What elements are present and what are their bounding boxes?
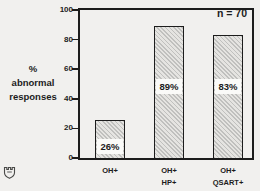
y-tick-label: 100 <box>60 5 73 15</box>
y-axis-title-line-3: responses <box>2 90 64 104</box>
y-axis-title-line-2: abnormal <box>2 76 64 90</box>
bar-value-label: 89% <box>156 79 182 94</box>
y-axis-title: % abnormal responses <box>2 62 64 104</box>
x-category-label: OH+ <box>78 165 142 177</box>
y-tick-mark <box>72 128 78 130</box>
x-category-label: OH+QSART+ <box>196 165 260 189</box>
y-axis-title-line-1: % <box>2 62 64 76</box>
plot-frame: 26%89%83% <box>78 8 254 160</box>
x-category-label-line: OH+ <box>137 165 201 177</box>
y-tick-mark <box>72 39 78 41</box>
x-category-label-line: OH+ <box>196 165 260 177</box>
y-tick-mark <box>72 157 78 159</box>
y-tick-mark <box>72 68 78 70</box>
y-tick-mark <box>72 9 78 11</box>
x-category-label-line: OH+ <box>78 165 142 177</box>
y-tick-mark <box>72 98 78 100</box>
bar-oh-: 26% <box>95 120 125 158</box>
figure: % abnormal responses n = 70 26%89%83% 02… <box>0 0 260 191</box>
crest-icon <box>3 166 16 180</box>
x-category-label-line: QSART+ <box>196 177 260 189</box>
x-category-label-line: HP+ <box>137 177 201 189</box>
bar-value-label: 83% <box>215 79 241 94</box>
bar-value-label: 26% <box>97 139 123 154</box>
bar-oh-qsart-: 83% <box>213 35 243 158</box>
x-category-label: OH+HP+ <box>137 165 201 189</box>
bar-oh-hp-: 89% <box>154 26 184 158</box>
